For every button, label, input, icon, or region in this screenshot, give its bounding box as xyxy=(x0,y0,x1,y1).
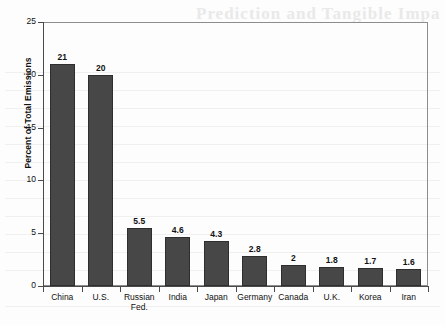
chart-page: Prediction and Tangible Impa Percent of … xyxy=(0,0,445,325)
bar-value-label: 1.8 xyxy=(312,255,352,265)
y-axis-tick-label: 15 xyxy=(16,122,36,132)
page-bleedthrough-line xyxy=(5,306,440,307)
bar xyxy=(50,64,75,286)
bar-value-label: 21 xyxy=(42,52,82,62)
bar-value-label: 1.7 xyxy=(350,256,390,266)
y-axis-tick xyxy=(38,233,44,234)
bar xyxy=(88,75,113,286)
bar-value-label: 2.8 xyxy=(235,244,275,254)
bar xyxy=(242,256,267,286)
bar-value-label: 20 xyxy=(81,63,121,73)
y-axis-tick xyxy=(38,75,44,76)
y-axis-tick xyxy=(38,22,44,23)
bar xyxy=(281,265,306,286)
y-axis-tick xyxy=(38,180,44,181)
x-axis-category-label: Iran xyxy=(385,292,433,302)
y-axis-tick-label: 25 xyxy=(16,16,36,26)
bar-value-label: 4.6 xyxy=(158,225,198,235)
bar-value-label: 5.5 xyxy=(119,216,159,226)
page-bleedthrough-title: Prediction and Tangible Impa xyxy=(196,4,441,24)
y-axis-tick-label: 0 xyxy=(16,280,36,290)
y-axis-tick-label: 10 xyxy=(16,174,36,184)
bar xyxy=(165,237,190,286)
bar xyxy=(204,241,229,286)
y-axis-tick-label: 20 xyxy=(16,69,36,79)
bar xyxy=(319,267,344,286)
bar xyxy=(127,228,152,286)
bar-value-label: 1.6 xyxy=(389,257,429,267)
y-axis-tick-label: 5 xyxy=(16,227,36,237)
bar xyxy=(358,268,383,286)
bar xyxy=(396,269,421,286)
y-axis-tick xyxy=(38,128,44,129)
bar-value-label: 4.3 xyxy=(196,229,236,239)
bar-value-label: 2 xyxy=(273,253,313,263)
